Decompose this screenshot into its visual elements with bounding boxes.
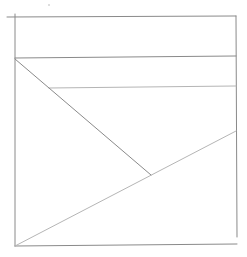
- sketch-marks: [48, 4, 50, 6]
- middle-horizontal-line: [49, 86, 236, 88]
- top-edge-line: [7, 16, 236, 17]
- sketch-lines: [7, 14, 237, 246]
- diagonal-down-line: [15, 59, 151, 175]
- upper-horizontal-line: [15, 56, 236, 58]
- diagonal-up-line: [15, 131, 236, 246]
- stray-dot: [48, 4, 50, 6]
- pencil-sketch-canvas: [0, 0, 247, 257]
- right-edge-line: [236, 16, 237, 237]
- bottom-edge-line: [15, 244, 237, 246]
